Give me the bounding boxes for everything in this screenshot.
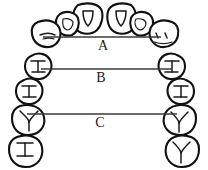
measurement-label-a: A xyxy=(98,38,109,53)
tooth-first-molar-left xyxy=(12,105,44,135)
tooth-first-premolar-right xyxy=(159,54,185,80)
arch-canvas: A B C xyxy=(0,0,208,170)
tooth-canine-right xyxy=(150,20,179,47)
dental-arch-diagram: A B C xyxy=(0,0,208,170)
measurement-label-c: C xyxy=(95,115,104,130)
tooth-second-premolar-left xyxy=(16,79,42,105)
tooth-first-premolar-left xyxy=(25,54,51,80)
tooth-first-molar-right xyxy=(164,105,196,135)
tooth-canine-left xyxy=(32,20,61,47)
measurement-label-b: B xyxy=(96,70,105,85)
tooth-second-premolar-right xyxy=(168,79,194,105)
tooth-second-molar-right xyxy=(166,135,199,167)
tooth-second-molar-left xyxy=(9,135,42,167)
